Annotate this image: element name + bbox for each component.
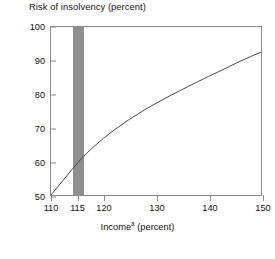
x-tick-mark-140 bbox=[210, 195, 211, 201]
y-tick-mark-80 bbox=[51, 95, 56, 96]
y-tick-mark-60 bbox=[51, 163, 56, 164]
x-tick-mark-110 bbox=[51, 195, 52, 201]
y-tick-label-60: 60 bbox=[35, 158, 45, 168]
x-tick-label-115: 115 bbox=[70, 203, 85, 213]
x-tick-mark-130 bbox=[157, 195, 158, 201]
footnote-strip bbox=[4, 249, 124, 258]
x-axis-title-suffix: (percent) bbox=[135, 222, 175, 232]
risk-curve bbox=[51, 27, 261, 195]
x-tick-label-130: 130 bbox=[149, 203, 164, 213]
plot-area: 5060708090100 110115120130140150 bbox=[50, 26, 262, 196]
x-tick-label-140: 140 bbox=[202, 203, 217, 213]
x-tick-label-150: 150 bbox=[255, 203, 270, 213]
chart-title: Risk of insolvency (percent) bbox=[29, 2, 146, 12]
y-tick-mark-70 bbox=[51, 129, 56, 130]
y-tick-mark-90 bbox=[51, 61, 56, 62]
y-tick-label-80: 80 bbox=[35, 90, 45, 100]
x-axis-title: Incomea (percent) bbox=[0, 222, 275, 232]
x-axis-title-text: Income bbox=[101, 222, 132, 232]
insolvency-risk-chart: Risk of insolvency (percent) 50607080901… bbox=[0, 0, 275, 259]
y-tick-label-90: 90 bbox=[35, 56, 45, 66]
x-tick-mark-115 bbox=[78, 195, 79, 201]
x-tick-label-120: 120 bbox=[96, 203, 111, 213]
y-tick-label-50: 50 bbox=[35, 192, 45, 202]
x-tick-mark-120 bbox=[104, 195, 105, 201]
x-tick-mark-150 bbox=[263, 195, 264, 201]
y-tick-mark-100 bbox=[51, 27, 56, 28]
y-tick-label-100: 100 bbox=[30, 22, 45, 32]
y-tick-label-70: 70 bbox=[35, 124, 45, 134]
x-tick-label-110: 110 bbox=[44, 203, 59, 213]
